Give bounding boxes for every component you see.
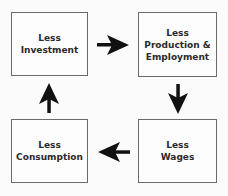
node-label: Less Investment — [21, 32, 79, 56]
arrow-up-icon — [39, 83, 59, 113]
node-label: Less Wages — [161, 139, 195, 163]
arrow-down-icon — [168, 84, 188, 114]
node-less-consumption: Less Consumption — [11, 119, 88, 183]
arrow-right-icon — [97, 35, 129, 55]
arrow-left-icon — [98, 142, 130, 162]
node-label: Less Consumption — [16, 139, 83, 163]
node-less-investment: Less Investment — [11, 12, 88, 76]
node-less-wages: Less Wages — [138, 119, 217, 183]
node-less-production-employment: Less Production & Employment — [138, 12, 217, 77]
node-label: Less Production & Employment — [144, 27, 210, 63]
